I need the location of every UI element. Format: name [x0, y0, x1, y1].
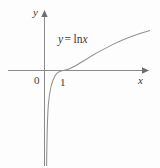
graph-figure: y x 0 1 y=lnx	[0, 0, 160, 168]
equation-rhs-variable: x	[83, 33, 88, 45]
equation-operator: =	[63, 33, 73, 45]
x-intercept-tick-label: 1	[60, 77, 66, 88]
equation-function: ln	[73, 33, 83, 45]
ln-curve	[47, 31, 150, 166]
x-axis-label: x	[138, 75, 143, 86]
y-axis-arrowhead-icon	[41, 10, 47, 17]
y-axis-label: y	[33, 7, 38, 18]
graph-canvas	[0, 0, 160, 168]
origin-label: 0	[34, 75, 40, 86]
x-axis-arrowhead-icon	[142, 67, 149, 74]
curve-equation-label: y=lnx	[58, 34, 88, 46]
